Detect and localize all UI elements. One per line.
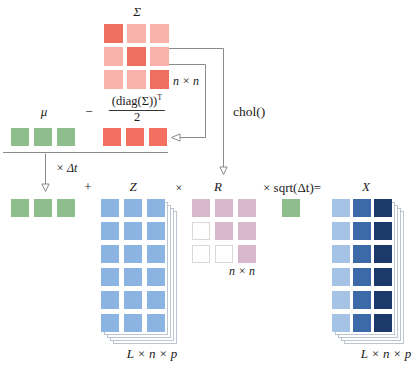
matrix-cell [11, 128, 29, 146]
matrix-cell [127, 47, 146, 66]
matrix-cell [104, 47, 123, 66]
x-matrix-stack [332, 199, 392, 332]
matrix-cell [149, 128, 167, 146]
matrix-cell [11, 199, 29, 217]
diag-arrowhead-icon [172, 134, 181, 141]
matrix-cell [374, 245, 392, 263]
matrix-cell [150, 70, 169, 89]
z-matrix-stack [101, 199, 165, 332]
matrix-cell [124, 199, 142, 217]
matrix-cell [103, 128, 121, 146]
matrix-cell [332, 291, 350, 309]
matrix-cell [147, 222, 165, 240]
z-dims-label: L × n × p [127, 347, 178, 361]
sigma-label: Σ [133, 5, 141, 19]
matrix-cell [104, 70, 123, 89]
fraction-denominator: 2 [109, 111, 165, 125]
matrix-cell [238, 199, 256, 217]
x-matrix [332, 199, 392, 332]
matrix-cell [101, 268, 119, 286]
transpose-superscript: T [157, 93, 162, 102]
matrix-cell [104, 24, 123, 43]
matrix-cell [215, 222, 233, 240]
matrix-cell [147, 291, 165, 309]
matrix-cell [374, 268, 392, 286]
plus-operator: + [84, 180, 91, 194]
sigma-matrix [104, 24, 169, 89]
matrix-cell [353, 245, 371, 263]
drift-arrowhead-icon [42, 184, 49, 192]
matrix-cell [332, 245, 350, 263]
z-matrix [101, 199, 165, 332]
matrix-cell [127, 24, 146, 43]
r-matrix [192, 199, 256, 263]
matrix-cell [353, 314, 371, 332]
matrix-cell [101, 199, 119, 217]
sqrt-dt-cell [282, 199, 300, 217]
matrix-cell [192, 222, 210, 240]
matrix-cell [353, 222, 371, 240]
matrix-cell [150, 47, 169, 66]
matrix-cell [124, 268, 142, 286]
matrix-cell [332, 314, 350, 332]
drift-vector [11, 199, 75, 217]
times-sqrt-dt-label: × sqrt(Δt)= [263, 181, 321, 195]
matrix-cell [147, 245, 165, 263]
minus-operator: − [85, 105, 92, 119]
times-dt-label: × Δt [56, 162, 77, 175]
mu-label: μ [41, 105, 48, 119]
matrix-cell [57, 128, 75, 146]
r-label: R [214, 180, 222, 194]
matrix-cell [332, 268, 350, 286]
matrix-flow-diagram: Σ n × n μ − (diag(Σ))T 2 chol() × Δt + Z… [0, 0, 417, 368]
sigma-dims-label: n × n [173, 75, 199, 88]
matrix-cell [34, 199, 52, 217]
matrix-cell [126, 128, 144, 146]
diag-vector [103, 128, 167, 146]
matrix-cell [238, 222, 256, 240]
matrix-cell [34, 128, 52, 146]
z-label: Z [129, 180, 136, 194]
matrix-cell [127, 70, 146, 89]
chol-label: chol() [233, 105, 265, 120]
matrix-cell [192, 245, 210, 263]
mu-vector [11, 128, 75, 146]
matrix-cell [124, 245, 142, 263]
matrix-cell [101, 222, 119, 240]
matrix-cell [374, 291, 392, 309]
matrix-cell [215, 199, 233, 217]
fraction-numerator: (diag(Σ))T [109, 94, 165, 111]
matrix-cell [57, 199, 75, 217]
chol-arrow-line [168, 49, 224, 168]
matrix-cell [282, 199, 300, 217]
matrix-cell [101, 245, 119, 263]
matrix-cell [353, 199, 371, 217]
fraction-numerator-text: (diag(Σ)) [112, 94, 157, 108]
matrix-cell [124, 222, 142, 240]
matrix-cell [101, 291, 119, 309]
matrix-cell [147, 314, 165, 332]
chol-arrowhead-icon [220, 167, 227, 175]
matrix-cell [147, 199, 165, 217]
matrix-cell [332, 199, 350, 217]
matrix-cell [353, 268, 371, 286]
matrix-cell [238, 245, 256, 263]
matrix-cell [147, 268, 165, 286]
diag-fraction: (diag(Σ))T 2 [109, 94, 165, 125]
x-label: X [362, 180, 370, 194]
matrix-cell [101, 314, 119, 332]
matrix-cell [353, 291, 371, 309]
matrix-cell [374, 222, 392, 240]
matrix-cell [215, 245, 233, 263]
matrix-cell [374, 314, 392, 332]
matrix-cell [192, 199, 210, 217]
matrix-cell [124, 314, 142, 332]
matrix-cell [150, 24, 169, 43]
r-dims-label: n × n [229, 265, 255, 278]
matrix-cell [332, 222, 350, 240]
times-operator: × [176, 182, 183, 195]
matrix-cell [124, 291, 142, 309]
matrix-cell [374, 199, 392, 217]
x-dims-label: L × n × p [361, 347, 412, 361]
